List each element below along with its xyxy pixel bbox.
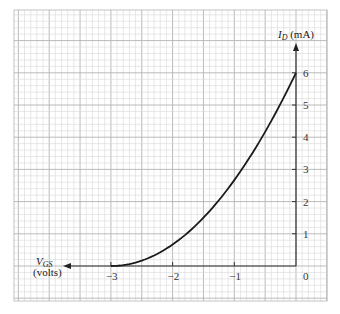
- y-tick-label: 5: [303, 99, 309, 111]
- x-axis-arrow-icon: [63, 263, 71, 269]
- y-tick-label: 2: [303, 196, 309, 208]
- transfer-characteristic-chart: 123456−3−2−1 ID (mA) VGS (volts) 0: [0, 0, 340, 314]
- x-axis-unit-label: (volts): [33, 266, 62, 279]
- y-axis-label: ID (mA): [277, 28, 314, 42]
- x-tick-label: −2: [168, 270, 180, 282]
- origin-label: 0: [303, 270, 309, 282]
- x-tick-label: −1: [229, 270, 241, 282]
- y-tick-label: 4: [303, 131, 309, 143]
- axis-ticks: 123456−3−2−1: [106, 67, 309, 282]
- y-tick-label: 6: [303, 67, 309, 79]
- y-tick-label: 3: [303, 163, 309, 175]
- x-tick-label: −3: [106, 270, 118, 282]
- y-tick-label: 1: [303, 228, 309, 240]
- graph-paper-grid: [14, 10, 327, 301]
